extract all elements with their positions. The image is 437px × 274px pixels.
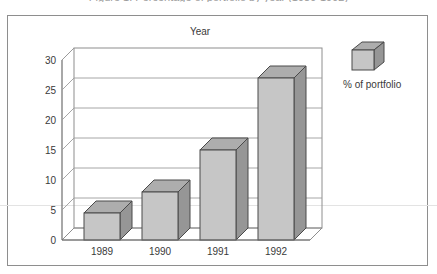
cube-3d-icon — [352, 42, 384, 70]
y-tick-label-0: 0 — [30, 235, 56, 246]
plot-area — [0, 0, 437, 274]
bar-1991 — [200, 138, 248, 240]
y-tick-label-15: 15 — [30, 145, 56, 156]
y-tick-label-25: 25 — [30, 85, 56, 96]
bar-1992 — [258, 66, 306, 240]
x-tick-label-1989: 1989 — [75, 246, 129, 257]
y-tick-label-10: 10 — [30, 175, 56, 186]
x-tick-label-1990: 1990 — [133, 246, 187, 257]
y-tick-label-20: 20 — [30, 115, 56, 126]
x-tick-label-1992: 1992 — [249, 246, 303, 257]
x-tick-label-1991: 1991 — [191, 246, 245, 257]
bar-1990 — [142, 180, 190, 240]
y-tick-label-30: 30 — [30, 55, 56, 66]
bar-1989 — [84, 201, 132, 240]
legend-entry-label: % of portfolio — [343, 79, 401, 90]
y-tick-label-5: 5 — [30, 205, 56, 216]
figure-3d-bar-chart: Figure 1. Percentage of portfolio by yea… — [0, 0, 437, 274]
